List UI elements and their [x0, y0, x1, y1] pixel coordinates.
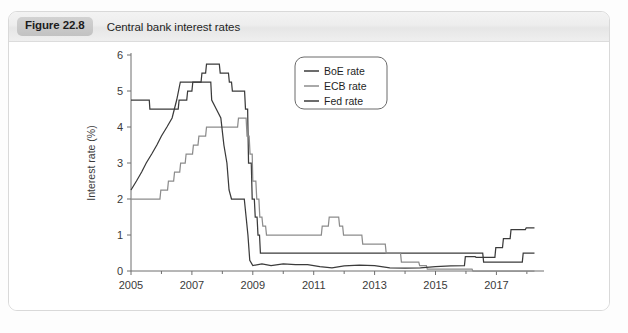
- figure-caption: Central bank interest rates: [107, 21, 241, 33]
- figure-screenshot: Figure 22.8 Central bank interest rates …: [0, 0, 628, 333]
- legend-label-boe-rate: BoE rate: [324, 65, 365, 77]
- y-tick-label: 3: [117, 157, 123, 169]
- y-tick-label: 0: [117, 265, 123, 277]
- interest-rate-line-chart: 0123456Interest rate (%)2005200720092011…: [9, 43, 610, 311]
- legend-label-fed-rate: Fed rate: [324, 95, 363, 107]
- series-line-ecb-rate: [131, 118, 534, 271]
- figure-panel: Figure 22.8 Central bank interest rates …: [8, 11, 610, 311]
- legend-label-ecb-rate: ECB rate: [324, 80, 367, 92]
- x-tick-label: 2013: [362, 279, 386, 291]
- chart-area: 0123456Interest rate (%)2005200720092011…: [9, 43, 609, 311]
- figure-number-badge: Figure 22.8: [17, 17, 93, 36]
- x-tick-label: 2011: [302, 279, 326, 291]
- x-tick-label: 2017: [484, 279, 508, 291]
- y-tick-label: 5: [117, 85, 123, 97]
- source-note-cutoff: [14, 321, 414, 332]
- figure-header: Figure 22.8 Central bank interest rates: [9, 12, 609, 42]
- x-tick-label: 2009: [241, 279, 265, 291]
- x-tick-label: 2005: [119, 279, 143, 291]
- y-tick-label: 6: [117, 49, 123, 61]
- x-tick-label: 2015: [423, 279, 447, 291]
- y-tick-label: 2: [117, 193, 123, 205]
- y-axis-title: Interest rate (%): [85, 125, 97, 200]
- y-tick-label: 1: [117, 229, 123, 241]
- series-line-fed-rate: [131, 82, 534, 268]
- x-tick-label: 2007: [180, 279, 204, 291]
- y-tick-label: 4: [117, 121, 123, 133]
